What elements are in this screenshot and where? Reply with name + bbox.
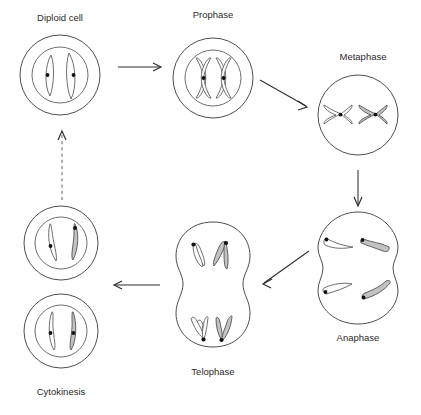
daughter-2-centromere-1 xyxy=(49,331,53,335)
stage-diploid-cell: Diploid cell xyxy=(20,12,100,115)
anaphase-centromere-4 xyxy=(362,296,366,300)
stage-metaphase: Metaphase xyxy=(318,51,398,155)
daughter-1-centromere-1 xyxy=(49,244,53,248)
diploid-cell-nucleus xyxy=(32,47,88,103)
anaphase-label: Anaphase xyxy=(337,332,380,343)
arrow-cytokinesis-to-diploid xyxy=(58,131,66,200)
anaphase-centromere-1 xyxy=(325,238,329,242)
prophase-centromere-1 xyxy=(202,76,206,80)
cytokinesis-daughter-cell-2 xyxy=(24,294,98,368)
daughter-2-centromere-2 xyxy=(72,331,76,335)
stage-cytokinesis: Cytokinesis xyxy=(24,206,98,397)
prophase-label: Prophase xyxy=(193,9,234,20)
arrow-shaft xyxy=(264,251,309,283)
telophase-centromere-1 xyxy=(191,242,195,246)
telophase-centromere-2 xyxy=(224,241,228,245)
telophase-centromere-3 xyxy=(201,337,205,341)
cytokinesis-label: Cytokinesis xyxy=(37,386,86,397)
stage-prophase: Prophase xyxy=(173,9,253,118)
arrow-telophase-to-cytokinesis xyxy=(114,281,160,289)
metaphase-centromere-1 xyxy=(339,113,343,117)
arrowhead xyxy=(298,101,307,110)
prophase-centromere-2 xyxy=(222,76,226,80)
daughter-2-nucleus xyxy=(35,305,87,357)
mitosis-cycle-diagram: Diploid cell Prophase xyxy=(0,0,421,415)
diploid-centromere-2 xyxy=(72,73,76,77)
arrow-diploid-to-prophase xyxy=(118,63,161,71)
cycle-canvas: Diploid cell Prophase xyxy=(0,0,421,415)
arrow-anaphase-to-telophase xyxy=(263,251,309,288)
metaphase-cell-membrane xyxy=(318,75,398,155)
prophase-nucleus xyxy=(185,50,241,106)
telophase-centromere-4 xyxy=(219,338,223,342)
anaphase-cell-membrane xyxy=(318,212,398,324)
arrow-prophase-to-metaphase xyxy=(260,80,307,110)
diploid-centromere-1 xyxy=(46,73,50,77)
stage-telophase: Telophase xyxy=(176,222,250,377)
arrow-metaphase-to-anaphase xyxy=(354,170,362,206)
anaphase-centromere-3 xyxy=(324,290,328,294)
stage-anaphase: Anaphase xyxy=(318,212,398,343)
daughter-1-centromere-2 xyxy=(73,226,77,230)
metaphase-label: Metaphase xyxy=(339,51,386,62)
daughter-1-nucleus xyxy=(35,217,87,269)
telophase-label: Telophase xyxy=(191,366,234,377)
cytokinesis-daughter-cell-1 xyxy=(24,206,98,280)
telophase-cell-membrane xyxy=(176,222,250,347)
diploid-cell-label: Diploid cell xyxy=(37,12,83,23)
anaphase-centromere-2 xyxy=(361,238,365,242)
metaphase-centromere-2 xyxy=(374,113,378,117)
